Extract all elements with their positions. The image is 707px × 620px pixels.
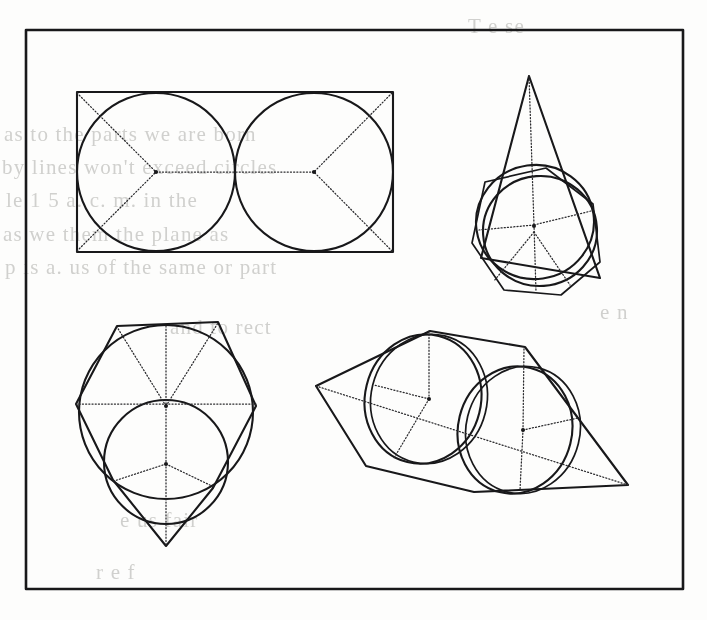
dotted-spoke-b-bottom <box>520 430 523 490</box>
geometry-canvas <box>0 0 707 620</box>
figure-bottom-left <box>76 322 256 546</box>
center-node-hexagon-lower <box>164 462 168 466</box>
center-node-hexagon-upper <box>164 404 168 408</box>
dotted-spoke-a-left <box>374 385 429 399</box>
dotted-spoke-upper-right <box>166 323 218 406</box>
dotted-spoke-b-top <box>523 348 524 430</box>
figure-bottom-right <box>316 322 628 506</box>
figure-top-right <box>469 76 602 295</box>
center-node-right <box>312 170 316 174</box>
figure-plate: as to the parts we are bornby lines won'… <box>0 0 707 620</box>
center-node-cyl-b <box>521 428 525 432</box>
dotted-spoke-a-lower <box>394 399 429 458</box>
dotted-apex-axis <box>529 76 534 225</box>
dotted-spoke-upper-left <box>117 327 166 406</box>
center-node-left <box>154 170 158 174</box>
dotted-spoke-lower-left <box>494 232 534 281</box>
center-node-cone <box>532 224 536 228</box>
dotted-spoke-lower-right <box>166 464 214 487</box>
dotted-spoke-lower-left <box>114 464 166 481</box>
figure-top-left <box>77 92 393 252</box>
dotted-diagonal-upper-left <box>77 93 156 172</box>
dotted-spoke-b-right <box>523 418 578 430</box>
dotted-long-axis <box>316 386 628 485</box>
polygon-envelope <box>316 331 628 492</box>
plate-frame-border <box>26 30 683 589</box>
dotted-spoke-left <box>479 225 534 230</box>
center-node-cyl-a <box>427 397 431 401</box>
dotted-diagonal-upper-right <box>314 93 392 172</box>
dotted-diagonal-lower-left <box>77 172 156 251</box>
dotted-diagonal-lower-right <box>314 172 392 251</box>
dotted-spoke-right <box>534 211 591 225</box>
